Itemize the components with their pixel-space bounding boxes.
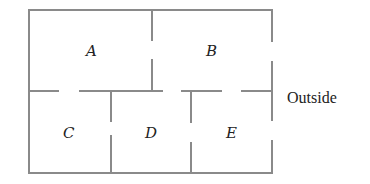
room-label-d: D <box>144 124 157 142</box>
room-label-b: B <box>205 42 217 60</box>
outside-label: Outside <box>287 89 337 106</box>
room-label-a: A <box>84 42 97 60</box>
room-label-e: E <box>225 124 237 142</box>
room-label-c: C <box>63 124 75 142</box>
floor-plan-diagram: A B C D E Outside <box>0 0 370 184</box>
